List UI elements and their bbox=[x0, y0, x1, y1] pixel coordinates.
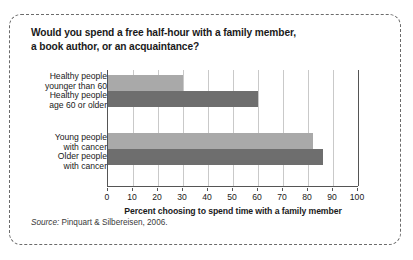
gridline bbox=[208, 70, 209, 186]
category-label-older-cancer: Older people with cancer bbox=[18, 152, 107, 172]
plot-area bbox=[107, 70, 358, 187]
tick-mark bbox=[307, 188, 308, 191]
x-tick-label: 50 bbox=[227, 192, 237, 202]
x-tick-label: 30 bbox=[177, 192, 187, 202]
gridline bbox=[283, 70, 284, 186]
tick-mark bbox=[357, 188, 358, 191]
axis-right-cap bbox=[358, 70, 359, 186]
chart-title-line-2: a book author, or an acquaintance? bbox=[31, 40, 361, 54]
x-tick-label: 20 bbox=[152, 192, 162, 202]
chart-title-line-1: Would you spend a free half-hour with a … bbox=[31, 26, 361, 40]
gridline bbox=[233, 70, 234, 186]
x-axis-title: Percent choosing to spend time with a fa… bbox=[107, 206, 359, 216]
gridline bbox=[183, 70, 184, 186]
bar bbox=[108, 91, 258, 107]
chart-plot-wrapper: Healthy people younger than 60 Healthy p… bbox=[10, 70, 402, 200]
category-axis-labels: Healthy people younger than 60 Healthy p… bbox=[18, 70, 107, 186]
x-tick-label: 90 bbox=[327, 192, 337, 202]
chart-title: Would you spend a free half-hour with a … bbox=[31, 26, 361, 54]
tick-mark bbox=[207, 188, 208, 191]
tick-mark bbox=[257, 188, 258, 191]
bar bbox=[108, 133, 313, 149]
x-tick-label: 60 bbox=[252, 192, 262, 202]
category-label-line: with cancer bbox=[18, 162, 107, 172]
source-label: Source: bbox=[31, 218, 59, 227]
bar bbox=[108, 149, 323, 165]
x-tick-label: 0 bbox=[105, 192, 110, 202]
tick-mark bbox=[132, 188, 133, 191]
x-tick-label: 10 bbox=[127, 192, 137, 202]
x-tick-label: 100 bbox=[350, 192, 364, 202]
x-tick-label: 40 bbox=[202, 192, 212, 202]
x-tick-label: 70 bbox=[277, 192, 287, 202]
tick-mark bbox=[182, 188, 183, 191]
tick-mark bbox=[157, 188, 158, 191]
tick-mark bbox=[107, 188, 108, 191]
category-label-young-cancer: Young people with cancer bbox=[18, 133, 107, 153]
x-axis-tick-labels: 0102030405060708090100 bbox=[107, 188, 359, 202]
gridline bbox=[258, 70, 259, 186]
gridline bbox=[333, 70, 334, 186]
category-label-healthy-younger: Healthy people younger than 60 bbox=[18, 72, 107, 92]
source-text: Pinquart & Silbereisen, 2006. bbox=[59, 218, 167, 227]
tick-mark bbox=[332, 188, 333, 191]
source-note: Source: Pinquart & Silbereisen, 2006. bbox=[31, 218, 168, 227]
bar bbox=[108, 75, 183, 91]
figure-frame: Would you spend a free half-hour with a … bbox=[9, 14, 401, 245]
tick-mark bbox=[232, 188, 233, 191]
category-label-healthy-older: Healthy people age 60 or older bbox=[18, 91, 107, 111]
gridline bbox=[308, 70, 309, 186]
x-tick-label: 80 bbox=[302, 192, 312, 202]
tick-mark bbox=[282, 188, 283, 191]
category-label-line: age 60 or older bbox=[18, 101, 107, 111]
